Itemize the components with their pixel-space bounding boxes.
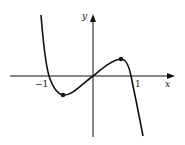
local-max-point [119, 57, 123, 61]
function-graph: −1 1 x y [0, 0, 185, 145]
tick-label-pos1: 1 [135, 79, 141, 89]
tick-label-neg1: −1 [35, 79, 48, 89]
y-axis-label: y [81, 11, 88, 21]
x-axis-label: x [165, 79, 170, 89]
local-min-point [61, 93, 65, 97]
y-axis-arrow-icon [90, 14, 96, 22]
